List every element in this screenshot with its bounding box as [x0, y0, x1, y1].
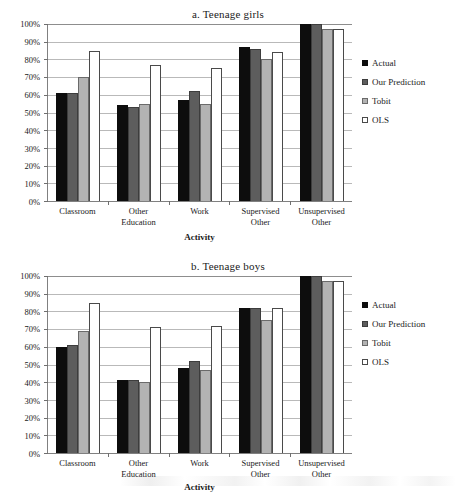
category-separator [229, 453, 230, 457]
legend-swatch-icon [362, 359, 368, 365]
y-tick-label: 100% [20, 272, 40, 281]
x-axis-title: Activity [47, 232, 352, 242]
bar-group [109, 276, 170, 453]
legend-swatch-icon [362, 340, 368, 346]
bar-group [109, 24, 170, 201]
bar-group [48, 24, 109, 201]
bar [333, 29, 344, 201]
bar [211, 326, 222, 453]
legend-label: Tobit [372, 338, 391, 348]
category-separator [229, 201, 230, 205]
y-tick-label: 40% [24, 379, 40, 388]
bar [78, 331, 89, 453]
category-separator [169, 201, 170, 205]
bar-groups [48, 24, 352, 201]
bar [261, 59, 272, 201]
bar [189, 91, 200, 201]
category-separator [169, 453, 170, 457]
bar-groups [48, 276, 352, 453]
bar [322, 281, 333, 453]
chart-panel-teenage-boys: b. Teenage boys 100%90%80%70%60%50%40%30… [0, 252, 456, 486]
bar [128, 107, 139, 201]
bar [250, 308, 261, 453]
y-tick-label: 70% [24, 325, 40, 334]
bar [250, 49, 261, 201]
legend-item: Actual [362, 300, 456, 310]
y-tick-label: 70% [24, 73, 40, 82]
category-separator [108, 453, 109, 457]
y-tick-label: 80% [24, 307, 40, 316]
bar [89, 303, 100, 453]
y-axis-labels: 100%90%80%70%60%50%40%30%20%10%0% [0, 276, 44, 454]
y-tick-label: 60% [24, 91, 40, 100]
y-tick-label: 90% [24, 38, 40, 47]
legend-item: Actual [362, 58, 456, 68]
bar [239, 47, 250, 201]
y-tick-label: 0% [29, 198, 40, 207]
x-tick-label: Work [169, 206, 230, 228]
bar [117, 105, 128, 201]
legend-item: OLS [362, 357, 456, 367]
legend-label: OLS [372, 115, 389, 125]
y-tick-label: 50% [24, 361, 40, 370]
bar [117, 380, 128, 453]
bar [128, 380, 139, 453]
bar [78, 77, 89, 201]
legend-swatch-icon [362, 79, 368, 85]
bar [300, 24, 311, 201]
legend-swatch-icon [362, 117, 368, 123]
category-separator [290, 453, 291, 457]
legend-item: Our Prediction [362, 319, 456, 329]
chart-legend: ActualOur PredictionTobitOLS [362, 58, 456, 134]
bar [311, 276, 322, 453]
y-tick-label: 10% [24, 180, 40, 189]
bar-group [230, 24, 291, 201]
bar [311, 24, 322, 201]
y-tick-label: 40% [24, 127, 40, 136]
x-axis-labels: ClassroomOtherEducationWorkSupervisedOth… [47, 206, 352, 228]
bar [56, 93, 67, 201]
x-tick-label: Classroom [47, 206, 108, 228]
legend-label: Our Prediction [372, 77, 425, 87]
y-tick-label: 0% [29, 450, 40, 459]
bar [150, 65, 161, 201]
bar-group [291, 24, 352, 201]
legend-label: Tobit [372, 96, 391, 106]
bar [56, 347, 67, 453]
chart-title: a. Teenage girls [0, 0, 456, 20]
y-tick-label: 30% [24, 396, 40, 405]
y-tick-label: 20% [24, 414, 40, 423]
bar-group [170, 276, 231, 453]
bar [139, 382, 150, 453]
bar [200, 104, 211, 201]
category-separator [290, 201, 291, 205]
bar [178, 368, 189, 453]
plot-area [47, 24, 352, 202]
bar [150, 327, 161, 453]
bar-group [48, 276, 109, 453]
y-tick-label: 20% [24, 162, 40, 171]
legend-item: OLS [362, 115, 456, 125]
bar [200, 370, 211, 453]
bar [239, 308, 250, 453]
plot-area [47, 276, 352, 454]
bar [67, 93, 78, 201]
legend-swatch-icon [362, 302, 368, 308]
x-tick-label: OtherEducation [108, 206, 169, 228]
legend-item: Tobit [362, 96, 456, 106]
bar [178, 100, 189, 201]
y-tick-label: 80% [24, 55, 40, 64]
bar-group [170, 24, 231, 201]
y-tick-label: 100% [20, 20, 40, 29]
y-tickmark [44, 201, 48, 202]
bar [261, 320, 272, 453]
y-axis-labels: 100%90%80%70%60%50%40%30%20%10%0% [0, 24, 44, 202]
legend-item: Tobit [362, 338, 456, 348]
legend-label: Actual [372, 58, 396, 68]
bar [272, 308, 283, 453]
y-tick-label: 30% [24, 144, 40, 153]
bar [139, 104, 150, 201]
bar [333, 281, 344, 453]
chart-panel-teenage-girls: a. Teenage girls 100%90%80%70%60%50%40%3… [0, 0, 456, 250]
legend-swatch-icon [362, 321, 368, 327]
